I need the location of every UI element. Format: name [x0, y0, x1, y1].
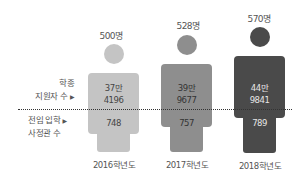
- total-2017: 528명: [163, 19, 213, 32]
- officers-2016: 748: [88, 117, 139, 129]
- applicants-2016: 37만 4196: [88, 82, 139, 106]
- applicants-label: 학종 지원자 수 ▶: [18, 77, 74, 103]
- person-legs-2016: [97, 130, 130, 152]
- officers-2018: 789: [234, 117, 285, 129]
- arrow-right-icon: ▶: [70, 93, 74, 100]
- applicants-2017: 39만 9677: [161, 82, 212, 106]
- person-head-2017: [177, 35, 197, 55]
- year-2018: 2018학년도: [230, 159, 290, 171]
- person-head-2016: [104, 44, 124, 64]
- year-2017: 2017학년도: [157, 158, 217, 170]
- total-2016: 500명: [86, 29, 136, 42]
- dotted-divider: [18, 109, 292, 110]
- applicants-2018: 44만 9841: [234, 82, 285, 106]
- person-head-2018: [250, 27, 270, 47]
- year-2016: 2016학년도: [84, 158, 144, 170]
- officers-2017: 757: [161, 117, 212, 129]
- total-2018: 570명: [234, 12, 284, 25]
- officers-label: 전임 입학 ▶ 사정관 수: [18, 114, 84, 140]
- arrow-right-icon: ▶: [62, 117, 66, 124]
